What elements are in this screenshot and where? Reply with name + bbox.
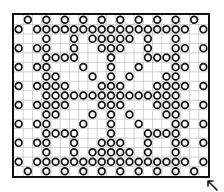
stitch-circle (163, 54, 170, 61)
stitch-circle (71, 45, 78, 52)
stitch-circle (98, 45, 105, 52)
stitch-circle (163, 83, 170, 90)
stitch-circle (117, 83, 124, 90)
stitch-circle (108, 121, 115, 128)
stitch-circle (80, 26, 87, 33)
stitch-circle (15, 64, 22, 71)
stitch-circle (15, 83, 22, 90)
stitch-circle (117, 16, 124, 23)
stitch-circle (135, 16, 142, 23)
stitch-circle (182, 45, 189, 52)
stitch-circle (34, 26, 41, 33)
stitch-circle (98, 158, 105, 165)
stitch-circle (200, 64, 207, 71)
stitch-circle (108, 54, 115, 61)
stitch-circle (89, 35, 96, 42)
stitch-circle (61, 158, 68, 165)
stitch-circle (61, 168, 68, 175)
stitch-circle (172, 139, 179, 146)
stitch-circle (172, 64, 179, 71)
stitch-circle (108, 149, 115, 156)
stitch-circle (154, 168, 161, 175)
stitch-circle (89, 92, 96, 99)
stitch-circle (182, 158, 189, 165)
stitch-circle (172, 158, 179, 165)
arrow-up-left-icon (205, 178, 219, 192)
stitch-circle (25, 168, 32, 175)
stitch-circle (154, 158, 161, 165)
stitch-circle (108, 111, 115, 118)
stitch-circle (98, 149, 105, 156)
stitch-circle (61, 54, 68, 61)
stitch-circle (89, 73, 96, 80)
stitch-circle (108, 139, 115, 146)
stitch-circle (71, 54, 78, 61)
stitch-circle (117, 92, 124, 99)
stitch-circle (154, 102, 161, 109)
pattern-chart (12, 13, 210, 178)
stitch-circle (117, 45, 124, 52)
stitch-circle (61, 83, 68, 90)
stitch-circle (117, 158, 124, 165)
stitch-circle (108, 102, 115, 109)
stitch-circle (126, 35, 133, 42)
stitch-circle (89, 111, 96, 118)
stitch-circle (154, 83, 161, 90)
stitch-circle (108, 35, 115, 42)
stitch-circle (172, 111, 179, 118)
stitch-circle (43, 121, 50, 128)
stitch-circle (145, 45, 152, 52)
stitch-circle (43, 158, 50, 165)
stitch-circle (154, 130, 161, 137)
stitch-circle (182, 121, 189, 128)
stitch-circle (191, 16, 198, 23)
stitch-circle (61, 130, 68, 137)
stitch-circle (43, 64, 50, 71)
stitch-circle (145, 130, 152, 137)
stitch-circle (200, 83, 207, 90)
stitch-circle (98, 139, 105, 146)
stitch-circle (43, 130, 50, 137)
stitch-circle (89, 26, 96, 33)
stitch-circle (126, 73, 133, 80)
stitch-circle (145, 139, 152, 146)
stitch-circle (172, 149, 179, 156)
stitch-circle (108, 73, 115, 80)
stitch-circle (71, 26, 78, 33)
stitch-circle (154, 92, 161, 99)
stitch-circle (34, 83, 41, 90)
stitch-circle (43, 92, 50, 99)
stitch-circle (108, 130, 115, 137)
stitch-circle (34, 139, 41, 146)
stitch-circle (145, 149, 152, 156)
stitch-circle (200, 102, 207, 109)
stitch-circle (80, 168, 87, 175)
stitch-circle (43, 168, 50, 175)
stitch-circle (80, 64, 87, 71)
stitch-circle (126, 26, 133, 33)
stitch-circle (154, 26, 161, 33)
stitch-circle (52, 102, 59, 109)
stitch-circle (34, 64, 41, 71)
stitch-circle (172, 45, 179, 52)
stitch-circle (145, 26, 152, 33)
stitch-circle (34, 45, 41, 52)
stitch-circle (25, 16, 32, 23)
stitch-circle (108, 92, 115, 99)
stitch-circle (43, 54, 50, 61)
stitch-circle (117, 26, 124, 33)
stitch-circle (34, 158, 41, 165)
stitch-circle (71, 92, 78, 99)
stitch-circle (98, 83, 105, 90)
stitch-circle (80, 16, 87, 23)
stitch-circle (145, 54, 152, 61)
stitch-circle (43, 45, 50, 52)
stitch-circle (71, 139, 78, 146)
stitch-circle (172, 26, 179, 33)
stitch-circle (145, 35, 152, 42)
stitch-circle (200, 158, 207, 165)
stitch-circle (163, 26, 170, 33)
stitch-circle (154, 16, 161, 23)
stitch-circle (61, 92, 68, 99)
stitch-circle (34, 121, 41, 128)
